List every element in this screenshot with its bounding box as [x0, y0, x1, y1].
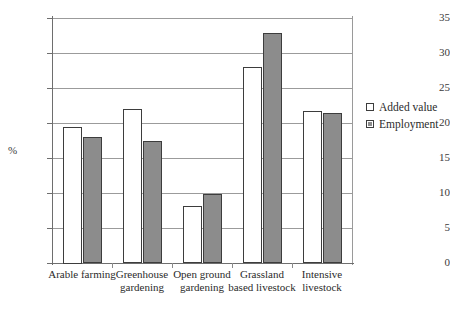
chart-legend: Added valueEmployment	[366, 98, 438, 132]
x-axis-category-label: Intensivelivestock	[286, 268, 358, 294]
legend-label: Employment	[379, 118, 438, 130]
y-tick-label: 30	[408, 47, 450, 58]
y-tick-label: 0	[408, 257, 450, 268]
bar-employment	[263, 33, 282, 263]
bar-employment	[323, 113, 342, 263]
gridline	[52, 53, 352, 54]
gridline	[52, 88, 352, 89]
y-axis-title: %	[8, 144, 17, 156]
bar-added-value	[243, 67, 262, 263]
bar-added-value	[123, 109, 142, 263]
y-tick-label: 25	[408, 82, 450, 93]
bar-employment	[83, 137, 102, 263]
y-tick-label: 35	[408, 12, 450, 23]
y-axis-line	[52, 16, 53, 265]
bar-chart: 05101520253035 % Arable farmingGreenhous…	[0, 0, 450, 312]
bar-added-value	[183, 206, 202, 263]
gridline	[52, 18, 352, 19]
y-tick-label: 10	[408, 187, 450, 198]
category-label-line: Intensive	[286, 268, 358, 281]
legend-item[interactable]: Added value	[366, 98, 438, 115]
bar-added-value	[303, 111, 322, 263]
plot-right-border	[352, 16, 353, 265]
bar-employment	[143, 141, 162, 263]
added-value-swatch-icon	[366, 103, 374, 111]
x-axis-line	[50, 263, 354, 264]
legend-item[interactable]: Employment	[366, 115, 438, 132]
legend-label: Added value	[379, 101, 437, 113]
y-tick-label: 15	[408, 152, 450, 163]
bar-added-value	[63, 127, 82, 264]
bar-employment	[203, 194, 222, 263]
employment-swatch-icon	[366, 120, 374, 128]
category-label-line: livestock	[286, 281, 358, 294]
y-tick-label: 5	[408, 222, 450, 233]
